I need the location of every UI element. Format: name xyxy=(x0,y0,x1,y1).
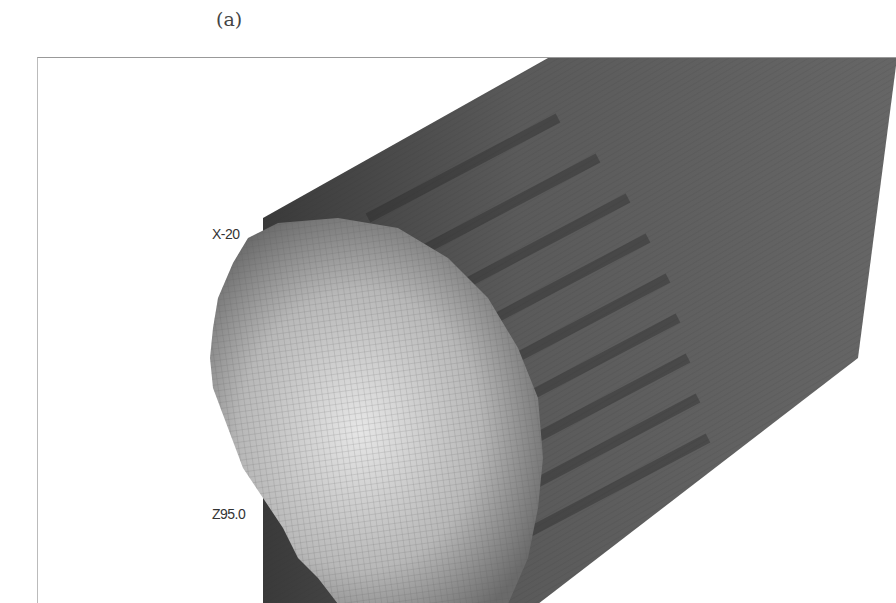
figure-frame xyxy=(37,57,896,603)
cylinder-mesh-render xyxy=(38,58,896,603)
panel-label: (a) xyxy=(216,8,242,30)
z-axis-label: Z95.0 xyxy=(212,506,245,522)
x-axis-label: X-20 xyxy=(212,226,240,242)
